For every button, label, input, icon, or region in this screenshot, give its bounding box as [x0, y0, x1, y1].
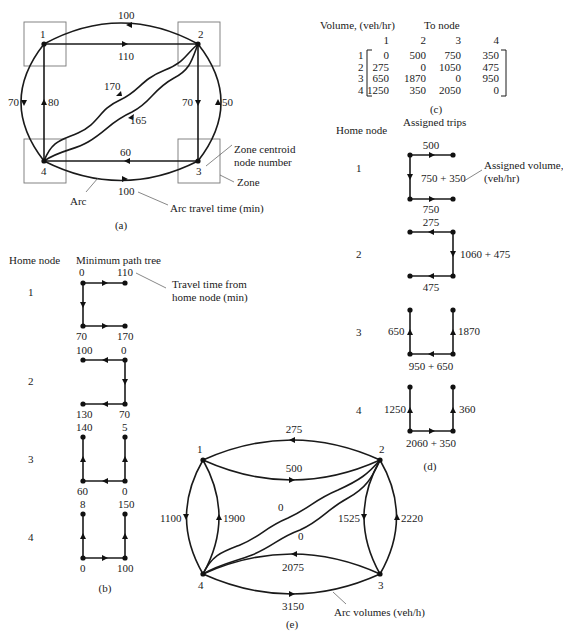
arrow-icon	[41, 99, 47, 105]
leader-line	[333, 592, 346, 604]
tree-time: 0	[80, 562, 86, 574]
arc-volume-label: 275	[286, 423, 303, 435]
matrix-cell: 1870	[404, 72, 427, 84]
arc-label: 70	[182, 96, 194, 108]
arrow-icon	[361, 514, 367, 520]
node-4	[41, 158, 46, 163]
arrow-icon	[215, 99, 221, 105]
svg-text:2: 2	[421, 34, 427, 46]
node-label: 1	[40, 28, 46, 40]
traffic-assignment-figure: 1 2 3 4 100 110 70 80 170 165 70 50 60 1…	[0, 0, 563, 642]
arrow-icon	[102, 555, 108, 561]
matrix-cell: 0	[421, 61, 427, 73]
arrow-icon	[429, 152, 435, 158]
arrow-icon	[195, 100, 201, 106]
arrow-icon	[122, 533, 128, 539]
tree-time: 100	[117, 562, 134, 574]
assigned-volume: 275	[423, 216, 440, 228]
arc-label: 100	[118, 9, 135, 21]
tree-home-2: 2 100 0 130 70	[28, 344, 131, 420]
tree-time: 5	[122, 421, 128, 433]
tree-home-1: 1 0 110 70 170	[28, 266, 134, 342]
header-home-node: Home node	[336, 124, 387, 136]
matrix-row-label: 3	[358, 72, 364, 84]
svg-text:1: 1	[384, 34, 390, 46]
arrow-icon	[102, 280, 108, 286]
annotation-home-node: home node (min)	[172, 291, 248, 304]
panel-caption: (a)	[115, 219, 128, 232]
node-label: 3	[378, 579, 384, 591]
home-node-label: 2	[28, 375, 34, 387]
node-3	[195, 158, 200, 163]
panel-caption: (d)	[424, 460, 437, 473]
leader-line	[136, 273, 166, 288]
arrow-icon	[450, 407, 456, 413]
matrix-cell: 1050	[439, 61, 462, 73]
matrix-header-to-node: To node	[424, 19, 460, 31]
node-2	[377, 457, 382, 462]
arrow-icon	[102, 401, 108, 407]
arrow-icon	[80, 533, 86, 539]
annotation-travel-time: Travel time from	[172, 278, 247, 290]
panel-d-assigned-trips: Home node Assigned trips Assigned volume…	[336, 116, 563, 473]
arc-a-outer-4-3	[44, 161, 198, 181]
matrix-column-headers: 1 2 3 4	[384, 34, 500, 46]
panel-e-arc-volumes: 1 2 3 4 275 500 1100 1900 0 0 1525 2220 …	[160, 423, 425, 631]
matrix-cell: 950	[483, 72, 500, 84]
assigned-volume: 475	[423, 281, 440, 293]
arrow-icon	[102, 323, 108, 329]
arrow-icon	[289, 591, 295, 597]
node-label: 4	[41, 165, 47, 177]
arrow-icon	[183, 514, 189, 520]
matrix-bracket-right	[501, 50, 506, 96]
matrix-row-label: 4	[358, 84, 364, 96]
tree-time: 70	[119, 408, 131, 420]
arc-volume-label: 2075	[282, 561, 305, 573]
arrow-icon	[216, 514, 222, 520]
arc-volume-label: 0	[278, 501, 284, 513]
arc-label: 60	[120, 146, 132, 158]
assigned-volume: 500	[423, 139, 440, 151]
tree-time: 60	[77, 485, 89, 497]
arc-e-outer-3-2	[380, 460, 397, 574]
matrix-cell: 0	[384, 49, 390, 61]
node-1	[200, 457, 205, 462]
annotation-zone: Zone	[237, 176, 260, 188]
arrow-icon	[80, 456, 86, 462]
matrix-cell: 0	[494, 84, 500, 96]
arc-e-outer-4-3	[203, 574, 380, 594]
matrix-cell: 500	[410, 49, 427, 61]
tree-time: 140	[76, 421, 93, 433]
arrow-icon	[102, 478, 108, 484]
arrow-icon	[428, 351, 434, 357]
assigned-volume: 750 + 350	[421, 172, 466, 184]
tree-time: 110	[117, 266, 134, 278]
arc-label: 100	[118, 185, 135, 197]
annotation-arc-travel-time: Arc travel time (min)	[170, 202, 264, 215]
home-node-label: 1	[28, 286, 34, 298]
arrow-icon	[429, 428, 435, 434]
assigned-volume: 1250	[384, 403, 407, 415]
tree-time: 0	[79, 266, 85, 278]
arc-volume-label: 1525	[338, 512, 361, 524]
arrow-icon	[289, 437, 295, 443]
panel-caption: (c)	[430, 103, 443, 116]
tree-home-3: 3 140 5 60 0	[28, 421, 128, 497]
arc-e-outer-1-4	[187, 460, 204, 574]
assigned-volume: 360	[459, 403, 476, 415]
matrix-row: 365018700950	[358, 72, 500, 84]
node-2	[195, 41, 200, 46]
node-label: 2	[198, 28, 204, 40]
arc-volume-label: 500	[286, 462, 303, 474]
arrow-icon	[124, 158, 130, 164]
matrix-rows: 1050075035022750105047536501870095041250…	[358, 49, 500, 96]
home-node-label: 2	[356, 248, 362, 260]
assigned-volume: 1870	[458, 325, 481, 337]
tree-time: 170	[117, 330, 134, 342]
node-3	[377, 571, 382, 576]
node-label: 4	[198, 579, 204, 591]
leader-line	[86, 178, 98, 192]
header-assigned-trips: Assigned trips	[403, 116, 466, 128]
header-min-path-tree: Minimum path tree	[76, 254, 161, 266]
arrow-icon	[450, 251, 456, 257]
